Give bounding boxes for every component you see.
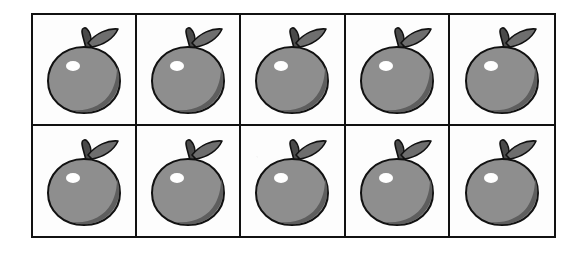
- grid-cell: [450, 15, 554, 126]
- counting-grid: [31, 13, 556, 238]
- grid-cell: [33, 126, 137, 237]
- grid-cell: [346, 15, 450, 126]
- apple-icon: [351, 19, 443, 119]
- apple-icon: [38, 131, 130, 231]
- apple-icon: [351, 131, 443, 231]
- image-canvas: [0, 0, 585, 253]
- apple-icon: [246, 131, 338, 231]
- apple-icon: [456, 19, 548, 119]
- apple-icon: [246, 19, 338, 119]
- grid-cell: [241, 15, 345, 126]
- apple-icon: [142, 131, 234, 231]
- grid-cell: [241, 126, 345, 237]
- apple-icon: [38, 19, 130, 119]
- apple-icon: [142, 19, 234, 119]
- apple-icon: [456, 131, 548, 231]
- grid-cell: [450, 126, 554, 237]
- grid-cell: [137, 15, 241, 126]
- grid-cell: [346, 126, 450, 237]
- grid-cell: [33, 15, 137, 126]
- grid-cell: [137, 126, 241, 237]
